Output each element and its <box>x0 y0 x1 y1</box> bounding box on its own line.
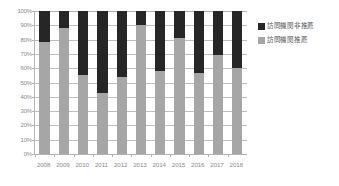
legend-label: 訪問機関非推薦 <box>267 22 314 30</box>
x-tick-label: 2018 <box>227 160 246 174</box>
x-axis-labels: 2008200920102011201220132014201520162017… <box>34 160 246 174</box>
x-tick-label: 2017 <box>207 160 226 174</box>
bar-stack[interactable] <box>97 11 107 154</box>
bar-segment-non-recommended <box>155 11 165 71</box>
y-tick-label: 50% <box>21 80 32 86</box>
x-tickmark <box>170 154 171 157</box>
bar-segment-non-recommended <box>97 11 107 93</box>
bar-slot <box>170 11 189 154</box>
x-tickmark <box>112 154 113 157</box>
y-tick-label: 90% <box>21 22 32 28</box>
bar-segment-recommended <box>232 68 242 154</box>
stacked-bar-chart: 100%90%80%70%60%50%40%30%20%10%0% 200820… <box>0 0 339 186</box>
x-tickmark <box>151 154 152 157</box>
x-tickmark <box>189 154 190 157</box>
x-tickmark <box>35 154 36 157</box>
bar-stack[interactable] <box>78 11 88 154</box>
bar-slot <box>35 11 54 154</box>
bar-slot <box>208 11 227 154</box>
bar-slot <box>74 11 93 154</box>
y-tick-label: 20% <box>21 122 32 128</box>
y-axis-labels: 100%90%80%70%60%50%40%30%20%10%0% <box>6 11 32 154</box>
bar-stack[interactable] <box>213 11 223 154</box>
legend-item[interactable]: 訪問機関推薦 <box>258 36 336 44</box>
x-tick-label: 2014 <box>150 160 169 174</box>
chart-legend: 訪問機関非推薦訪問機関推薦 <box>258 22 336 50</box>
x-tick-label: 2010 <box>73 160 92 174</box>
bar-segment-non-recommended <box>117 11 127 77</box>
bar-segment-non-recommended <box>39 11 49 42</box>
y-tick-label: 30% <box>21 108 32 114</box>
bar-slot <box>189 11 208 154</box>
bar-segment-non-recommended <box>136 11 146 25</box>
legend-swatch-icon <box>258 37 265 44</box>
bar-slot <box>131 11 150 154</box>
bar-segment-non-recommended <box>232 11 242 68</box>
bar-slot <box>151 11 170 154</box>
x-tick-label: 2008 <box>34 160 53 174</box>
x-tickmark <box>93 154 94 157</box>
bar-segment-non-recommended <box>59 11 69 28</box>
bar-segment-recommended <box>59 28 69 154</box>
bar-segment-recommended <box>117 77 127 154</box>
bar-segment-recommended <box>39 42 49 154</box>
bar-segment-non-recommended <box>194 11 204 72</box>
x-tickmark <box>54 154 55 157</box>
bar-slot <box>112 11 131 154</box>
bar-stack[interactable] <box>194 11 204 154</box>
bar-stack[interactable] <box>59 11 69 154</box>
x-tick-label: 2016 <box>188 160 207 174</box>
bar-stack[interactable] <box>232 11 242 154</box>
bar-segment-non-recommended <box>213 11 223 55</box>
x-tick-label: 2011 <box>92 160 111 174</box>
x-tick-label: 2013 <box>130 160 149 174</box>
bar-segment-non-recommended <box>78 11 88 75</box>
bar-stack[interactable] <box>39 11 49 154</box>
y-tick-label: 0% <box>24 151 32 157</box>
x-tickmark <box>208 154 209 157</box>
bar-stack[interactable] <box>136 11 146 154</box>
legend-swatch-icon <box>258 23 265 30</box>
bar-slot <box>93 11 112 154</box>
y-tick-label: 80% <box>21 37 32 43</box>
bar-segment-recommended <box>97 93 107 154</box>
bar-segment-recommended <box>194 73 204 155</box>
x-tick-label: 2009 <box>53 160 72 174</box>
bar-stack[interactable] <box>174 11 184 154</box>
x-tick-label: 2015 <box>169 160 188 174</box>
x-tickmark <box>228 154 229 157</box>
y-tick-label: 60% <box>21 65 32 71</box>
y-tick-label: 70% <box>21 51 32 57</box>
y-tick-label: 10% <box>21 137 32 143</box>
bar-segment-recommended <box>174 38 184 154</box>
bar-segment-non-recommended <box>174 11 184 38</box>
legend-label: 訪問機関推薦 <box>267 36 307 44</box>
y-tick-label: 100% <box>17 8 32 14</box>
bar-segment-recommended <box>213 55 223 154</box>
bar-stack[interactable] <box>117 11 127 154</box>
bar-slot <box>228 11 247 154</box>
x-tickmark <box>131 154 132 157</box>
legend-item[interactable]: 訪問機関非推薦 <box>258 22 336 30</box>
bars-layer <box>35 11 247 154</box>
bar-segment-recommended <box>136 25 146 154</box>
x-tickmark <box>74 154 75 157</box>
bar-slot <box>54 11 73 154</box>
plot-area <box>34 11 247 155</box>
bar-stack[interactable] <box>155 11 165 154</box>
x-tick-label: 2012 <box>111 160 130 174</box>
y-tick-label: 40% <box>21 94 32 100</box>
bar-segment-recommended <box>78 75 88 154</box>
bar-segment-recommended <box>155 71 165 154</box>
plot-wrapper: 100%90%80%70%60%50%40%30%20%10%0% 200820… <box>0 0 252 186</box>
